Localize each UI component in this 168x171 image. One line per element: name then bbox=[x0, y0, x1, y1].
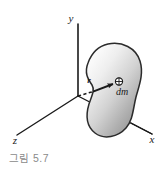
figure-container: y x z r dm 그림 5.7 bbox=[0, 0, 168, 171]
z-axis-label: z bbox=[12, 134, 18, 146]
x-axis-label: x bbox=[149, 133, 155, 145]
z-axis-line bbox=[17, 96, 78, 135]
figure-diagram: y x z r dm bbox=[0, 0, 168, 171]
mass-element-marker bbox=[115, 78, 123, 86]
figure-caption: 그림 5.7 bbox=[9, 150, 49, 165]
mass-element-label: dm bbox=[116, 86, 128, 97]
vector-r-label: r bbox=[87, 75, 91, 85]
y-axis-label: y bbox=[68, 12, 74, 24]
